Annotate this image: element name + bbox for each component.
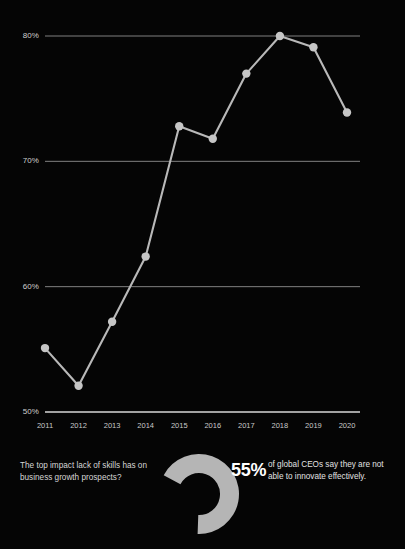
data-point-marker [175, 122, 183, 130]
donut-chart-icon [158, 443, 244, 545]
data-point-marker [242, 69, 250, 77]
y-axis-tick-label: 60% [13, 282, 39, 291]
x-axis-tick-label: 2014 [131, 421, 161, 430]
stat-description-text: of global CEOs say they are not able to … [268, 459, 400, 482]
x-axis-tick-label: 2015 [164, 421, 194, 430]
x-axis-tick-label: 2020 [332, 421, 362, 430]
x-axis-tick-label: 2012 [64, 421, 94, 430]
data-point-marker [141, 252, 149, 260]
data-point-marker [343, 108, 351, 116]
y-axis-tick-label: 50% [13, 407, 39, 416]
line-chart-panel: 50%60%70%80% 201120122013201420152016201… [0, 0, 405, 442]
data-point-marker [276, 32, 284, 40]
data-point-marker [309, 43, 317, 51]
y-axis-tick-label: 70% [13, 156, 39, 165]
data-point-marker [209, 135, 217, 143]
donut-arc-segment [164, 454, 239, 534]
x-axis-tick-label: 2017 [231, 421, 261, 430]
stat-question-text: The top impact lack of skills has on bus… [20, 460, 165, 483]
x-axis-tick-label: 2016 [198, 421, 228, 430]
line-chart-svg [0, 0, 405, 442]
x-axis-tick-label: 2019 [298, 421, 328, 430]
x-axis-tick-label: 2013 [97, 421, 127, 430]
stat-band: The top impact lack of skills has on bus… [0, 442, 405, 549]
donut-svg [158, 443, 244, 545]
data-point-marker [41, 344, 49, 352]
x-axis-tick-label: 2011 [30, 421, 60, 430]
infographic-page: 50%60%70%80% 201120122013201420152016201… [0, 0, 405, 549]
chart-background [0, 0, 405, 442]
stat-percent-value: 55% [231, 460, 266, 481]
x-axis-tick-label: 2018 [265, 421, 295, 430]
y-axis-tick-label: 80% [13, 31, 39, 40]
data-point-marker [108, 318, 116, 326]
data-point-marker [74, 381, 82, 389]
